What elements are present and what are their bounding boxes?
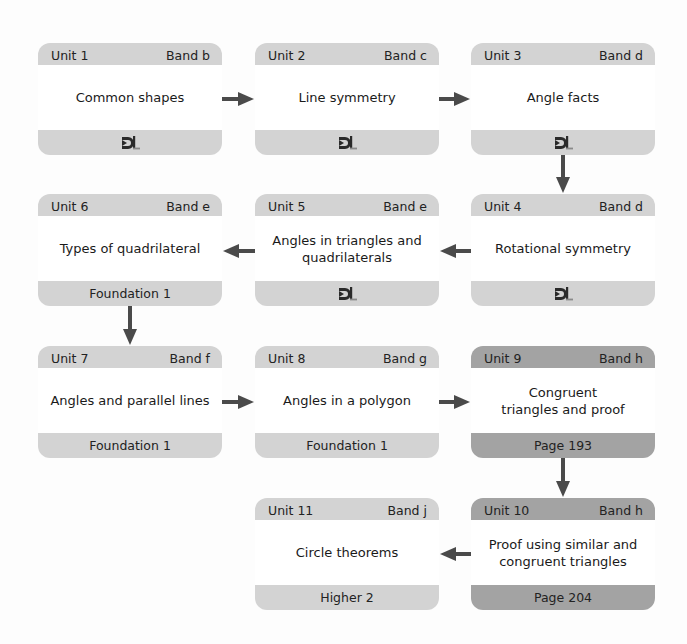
unit-header: Unit 3 Band d xyxy=(471,43,655,65)
unit-card-8: Unit 8 Band g Angles in a polygon Founda… xyxy=(255,346,439,458)
unit-card-10: Unit 10 Band h Proof using similar and c… xyxy=(471,498,655,610)
unit-footer-label: Page 193 xyxy=(471,433,655,458)
dl-logo-icon xyxy=(336,286,358,302)
unit-band: Band b xyxy=(166,48,210,63)
unit-card-9: Unit 9 Band h Congruent triangles and pr… xyxy=(471,346,655,458)
unit-header: Unit 8 Band g xyxy=(255,346,439,368)
unit-band: Band e xyxy=(166,199,210,214)
unit-title: Rotational symmetry xyxy=(471,216,655,281)
dl-logo-icon xyxy=(552,135,574,151)
unit-band: Band e xyxy=(383,199,427,214)
dl-logo-icon xyxy=(119,135,141,151)
dl-logo-icon xyxy=(552,286,574,302)
unit-title: Congruent triangles and proof xyxy=(471,368,655,433)
unit-footer-label: Foundation 1 xyxy=(255,433,439,458)
unit-header: Unit 1 Band b xyxy=(38,43,222,65)
unit-header: Unit 4 Band d xyxy=(471,194,655,216)
unit-title: Line symmetry xyxy=(255,65,439,130)
unit-number: Unit 3 xyxy=(484,48,521,63)
unit-footer xyxy=(38,130,222,155)
unit-number: Unit 5 xyxy=(268,199,305,214)
arrow-right-icon xyxy=(222,91,255,107)
unit-band: Band f xyxy=(170,351,210,366)
unit-number: Unit 10 xyxy=(484,503,529,518)
unit-header: Unit 10 Band h xyxy=(471,498,655,520)
arrow-down-icon xyxy=(122,306,138,346)
unit-number: Unit 6 xyxy=(51,199,88,214)
unit-footer-label: Foundation 1 xyxy=(38,433,222,458)
unit-title: Angle facts xyxy=(471,65,655,130)
arrow-left-icon xyxy=(439,546,471,562)
unit-header: Unit 11 Band j xyxy=(255,498,439,520)
unit-card-3: Unit 3 Band d Angle facts xyxy=(471,43,655,155)
unit-card-7: Unit 7 Band f Angles and parallel lines … xyxy=(38,346,222,458)
unit-band: Band g xyxy=(383,351,427,366)
unit-title: Angles in a polygon xyxy=(255,368,439,433)
arrow-down-icon xyxy=(555,155,571,194)
unit-card-4: Unit 4 Band d Rotational symmetry xyxy=(471,194,655,306)
unit-footer xyxy=(471,130,655,155)
unit-band: Band j xyxy=(387,503,427,518)
unit-title: Circle theorems xyxy=(255,520,439,585)
unit-footer-label: Foundation 1 xyxy=(38,281,222,306)
unit-band: Band h xyxy=(599,351,643,366)
unit-footer xyxy=(255,130,439,155)
arrow-right-icon xyxy=(222,394,255,410)
unit-band: Band d xyxy=(599,199,643,214)
arrow-right-icon xyxy=(439,91,471,107)
unit-footer-label: Page 204 xyxy=(471,585,655,610)
unit-footer xyxy=(471,281,655,306)
unit-band: Band c xyxy=(384,48,427,63)
unit-footer xyxy=(255,281,439,306)
unit-card-2: Unit 2 Band c Line symmetry xyxy=(255,43,439,155)
unit-number: Unit 11 xyxy=(268,503,313,518)
arrow-down-icon xyxy=(555,458,571,498)
unit-band: Band d xyxy=(599,48,643,63)
unit-title: Angles and parallel lines xyxy=(38,368,222,433)
unit-header: Unit 5 Band e xyxy=(255,194,439,216)
unit-number: Unit 8 xyxy=(268,351,305,366)
unit-number: Unit 4 xyxy=(484,199,521,214)
unit-header: Unit 9 Band h xyxy=(471,346,655,368)
unit-card-6: Unit 6 Band e Types of quadrilateral Fou… xyxy=(38,194,222,306)
unit-title: Common shapes xyxy=(38,65,222,130)
unit-header: Unit 6 Band e xyxy=(38,194,222,216)
arrow-right-icon xyxy=(439,394,471,410)
unit-flow-diagram: Unit 1 Band b Common shapes Unit 2 Band … xyxy=(0,0,687,644)
arrow-left-icon xyxy=(222,243,255,259)
unit-card-5: Unit 5 Band e Angles in triangles and qu… xyxy=(255,194,439,306)
unit-number: Unit 7 xyxy=(51,351,88,366)
dl-logo-icon xyxy=(336,135,358,151)
unit-title: Proof using similar and congruent triang… xyxy=(471,520,655,585)
unit-footer-label: Higher 2 xyxy=(255,585,439,610)
unit-card-1: Unit 1 Band b Common shapes xyxy=(38,43,222,155)
unit-card-11: Unit 11 Band j Circle theorems Higher 2 xyxy=(255,498,439,610)
arrow-left-icon xyxy=(439,243,471,259)
unit-header: Unit 2 Band c xyxy=(255,43,439,65)
unit-title: Angles in triangles and quadrilaterals xyxy=(255,216,439,281)
unit-number: Unit 2 xyxy=(268,48,305,63)
unit-band: Band h xyxy=(599,503,643,518)
unit-title: Types of quadrilateral xyxy=(38,216,222,281)
unit-header: Unit 7 Band f xyxy=(38,346,222,368)
unit-number: Unit 9 xyxy=(484,351,521,366)
unit-number: Unit 1 xyxy=(51,48,88,63)
